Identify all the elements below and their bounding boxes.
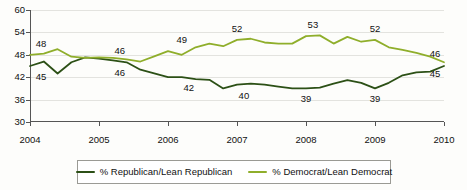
x-tick-mark [237,122,238,126]
x-tick-label: 2008 [295,135,316,145]
x-tick-mark [444,122,445,126]
x-tick-mark [30,122,31,126]
legend-label-democrat: % Democrat/Lean Democrat [272,167,392,177]
y-tick-label: 60 [14,5,25,15]
x-tick-mark [168,122,169,126]
plot-area: 303642485460 200420052006200720082009201… [30,10,444,122]
x-tick-label: 2005 [88,135,109,145]
x-tick-label: 2004 [19,135,40,145]
y-tick-label: 36 [14,95,25,105]
data-point-label: 53 [308,20,319,30]
data-point-label: 39 [301,95,312,105]
legend-item-democrat[interactable]: % Democrat/Lean Democrat [248,167,392,177]
y-tick-label: 48 [14,50,25,60]
x-tick-mark [306,122,307,126]
y-tick-label: 30 [14,117,25,127]
legend-item-republican[interactable]: % Republican/Lean Republican [76,167,233,177]
x-tick-label: 2009 [364,135,385,145]
data-point-label: 46 [114,46,125,56]
clipped-title [0,0,467,4]
legend-swatch-republican [76,171,95,174]
data-point-label: 52 [232,24,243,34]
x-tick-mark [99,122,100,126]
legend-label-republican: % Republican/Lean Republican [100,167,233,177]
data-point-label: 42 [183,83,194,93]
data-point-label: 48 [36,39,47,49]
y-tick-label: 42 [14,72,25,82]
series-line-democrat [30,35,444,62]
data-point-label: 45 [36,72,47,82]
chart-legend: % Republican/Lean Republican % Democrat/… [77,160,391,184]
x-tick-label: 2010 [433,135,454,145]
line-chart: 303642485460 200420052006200720082009201… [0,0,467,190]
data-point-label: 49 [177,35,188,45]
data-point-label: 46 [114,69,125,79]
x-tick-mark [375,122,376,126]
data-point-label: 40 [239,91,250,101]
series-line-republican [30,57,444,88]
x-tick-label: 2006 [157,135,178,145]
data-point-label: 46 [430,50,441,60]
y-tick-label: 54 [14,28,25,38]
data-point-label: 39 [370,95,381,105]
x-tick-label: 2007 [226,135,247,145]
legend-swatch-democrat [248,171,267,174]
data-point-label: 52 [370,24,381,34]
data-point-label: 45 [430,69,441,79]
